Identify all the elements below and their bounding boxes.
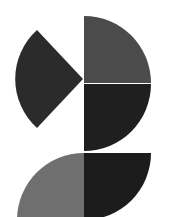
bottom-right-quarter-shape [84, 153, 151, 217]
left-wedge-shape [15, 30, 83, 128]
bottom-left-quarter-shape [17, 153, 84, 217]
geometric-composition [0, 0, 173, 217]
middle-right-quarter-shape [84, 84, 151, 151]
top-right-quarter-shape [84, 16, 151, 83]
